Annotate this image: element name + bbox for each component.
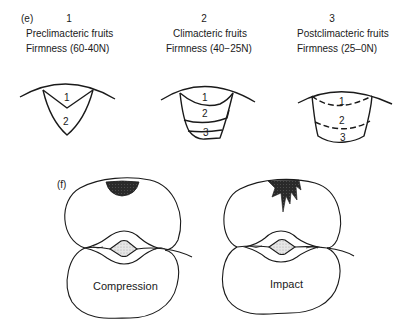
compression-bruise [106,181,139,196]
impact-bruise [268,180,301,212]
impact-caption: Impact [270,278,303,290]
compression-caption: Compression [93,280,158,292]
layer-1-label: 1 [339,96,345,107]
stage-2-bruise-diagram: 1 2 3 [161,86,255,139]
core-seed-cavity [110,241,137,257]
layer-2-label: 2 [339,115,345,126]
layer-1-label: 1 [202,92,208,103]
layer-3-label: 3 [203,127,209,138]
stage-1-bruise-diagram: 1 2 [20,84,115,135]
diagram-canvas: 1 2 1 2 3 1 2 3 (f) Compression [0,0,410,336]
fruit-surface-2 [161,86,255,102]
panel-f-label: (f) [57,179,66,190]
impact-fruit-diagram: Impact [222,179,354,314]
compression-fruit-diagram: Compression [65,178,192,318]
stage-3-bruise-diagram: 1 2 3 [298,92,392,143]
layer-2-label: 2 [202,108,208,119]
stem-line [85,247,192,257]
layer-1-label: 1 [64,92,70,103]
core-seed-cavity [269,240,295,255]
layer-3-label: 3 [340,132,346,143]
layer-2-label: 2 [63,116,69,127]
